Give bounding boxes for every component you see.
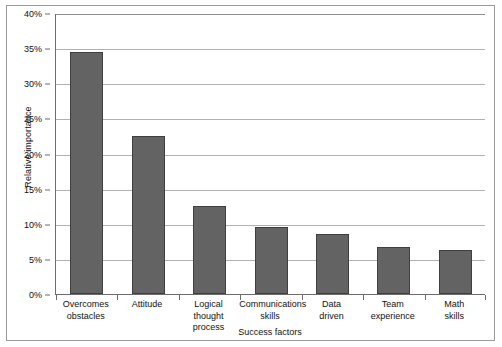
y-axis-tick-label: 0% xyxy=(29,290,42,300)
bar xyxy=(316,234,349,294)
y-axis-tick-mark xyxy=(45,224,50,225)
y-axis-tick-label: 20% xyxy=(24,150,42,160)
y-axis-tick-label: 10% xyxy=(24,220,42,230)
y-axis-tick-label: 5% xyxy=(29,255,42,265)
bar xyxy=(70,52,103,294)
x-axis-category-label: Overcomesobstacles xyxy=(55,299,116,322)
y-axis-tick-mark xyxy=(45,189,50,190)
bar xyxy=(439,250,472,294)
x-axis-category-label: Datadriven xyxy=(301,299,362,322)
y-axis-tick-label: 40% xyxy=(24,9,42,19)
y-axis-tick-label: 35% xyxy=(24,44,42,54)
y-axis-tick-label: 15% xyxy=(24,185,42,195)
bar-series xyxy=(56,14,485,294)
x-axis-category-label: Mathskills xyxy=(424,299,485,322)
bar xyxy=(377,247,410,294)
x-axis-category-label: Teamexperience xyxy=(362,299,423,322)
bar xyxy=(193,206,226,294)
bar-chart-figure: Relative importance 0%5%10%15%20%25%30%3… xyxy=(0,0,502,347)
x-axis-tick-mark xyxy=(485,295,486,300)
x-axis-category-label: Communicationsskills xyxy=(239,299,300,322)
plot-area xyxy=(55,14,485,295)
x-axis-category-label: Attitude xyxy=(116,299,177,311)
x-axis-title: Success factors xyxy=(55,327,485,337)
y-axis-tick-mark xyxy=(45,119,50,120)
y-axis-tick-label: 25% xyxy=(24,114,42,124)
y-axis-tick-labels: 0%5%10%15%20%25%30%35%40% xyxy=(0,14,50,295)
y-axis-tick-mark xyxy=(45,295,50,296)
y-axis-tick-mark xyxy=(45,84,50,85)
x-axis-category-labels: OvercomesobstaclesAttitudeLogicalthought… xyxy=(55,299,485,329)
y-axis-tick-label: 30% xyxy=(24,79,42,89)
y-axis-tick-mark xyxy=(45,259,50,260)
y-axis-tick-mark xyxy=(45,14,50,15)
y-axis-tick-mark xyxy=(45,154,50,155)
bar xyxy=(132,136,165,294)
y-axis-tick-mark xyxy=(45,49,50,50)
bar xyxy=(255,227,288,294)
